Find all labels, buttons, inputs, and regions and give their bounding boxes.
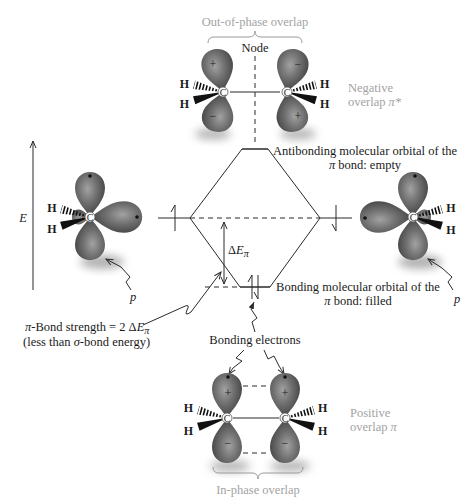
out-of-phase-caption: Out-of-phase overlap [202, 15, 309, 29]
hydrogen-atom: H [320, 97, 330, 111]
hydrogen-atom: H [180, 77, 190, 91]
bond-strength-line1: π-Bond strength = 2 ΔEπ [25, 320, 150, 336]
bottom-orbital-pair: + + − − H H H H C C Positive overlap π I… [184, 373, 398, 497]
carbon-atom: C [224, 413, 231, 424]
pi-bond-mo-diagram: Out-of-phase overlap Node + − − + H H H … [0, 0, 473, 504]
overlap-word: overlap [350, 420, 391, 434]
electron-dot [363, 216, 367, 220]
hydrogen-atom: H [184, 401, 194, 415]
bonding-label-line2: π bond: filled [324, 294, 392, 308]
pi-subscript: π [244, 248, 250, 259]
energy-axis-label: E [18, 211, 27, 225]
e-symbol: E [235, 243, 244, 257]
bonding-electrons-pointer-left [229, 350, 244, 374]
carbon-atom: C [282, 413, 289, 424]
bond-strength-annotation: π-Bond strength = 2 ΔEπ (less than σ-bon… [23, 272, 221, 349]
electron-dot [283, 375, 287, 379]
electron-dot [226, 375, 230, 379]
electron-dot [413, 174, 417, 178]
bond-strength-text: -Bond strength = 2 Δ [31, 320, 136, 334]
node-label: Node [241, 41, 269, 55]
less-than-text: (less than [23, 335, 74, 349]
phase-sign-minus: − [295, 57, 302, 71]
pi-symbol: π [391, 420, 398, 434]
delta-e-label: ΔEπ [228, 243, 250, 259]
positive-overlap-label-line2: overlap π [350, 420, 398, 434]
bonding-electrons-pointer-right [264, 350, 284, 374]
bonding-label-line1: Bonding molecular orbital of the [276, 280, 440, 294]
in-phase-caption: In-phase overlap [216, 483, 300, 497]
p-orbital-lobe-upper-right [272, 46, 312, 95]
phase-sign-plus: + [210, 57, 217, 71]
top-orbital-pair: Out-of-phase overlap Node + − − + H H H … [180, 15, 402, 142]
hydrogen-atom: H [184, 424, 194, 438]
bond-strength-pointer [143, 272, 221, 325]
p-orbital-label-right: p [453, 292, 460, 306]
phase-sign-minus: − [282, 436, 289, 450]
electron-dot [88, 174, 92, 178]
bonding-correlation-lines [190, 218, 320, 287]
phase-sign-plus: + [282, 386, 289, 400]
hydrogen-atom: H [320, 77, 330, 91]
antibonding-state: bond: empty [335, 158, 402, 172]
hydrogen-atom: H [180, 97, 190, 111]
hashed-wedge-bond [288, 410, 315, 417]
left-carbon-p-orbital: H H C p [47, 172, 142, 304]
carbon-atom: C [220, 87, 227, 98]
hydrogen-atom: H [47, 201, 57, 215]
p-orbital-label-left: p [129, 290, 136, 304]
delta-symbol: Δ [228, 243, 236, 257]
bonding-electrons-label: Bonding electrons [209, 333, 300, 347]
hydrogen-atom: H [318, 424, 328, 438]
e-symbol: E [136, 320, 145, 334]
energy-axis: E [18, 141, 33, 290]
pi-star-symbol: π* [389, 95, 402, 109]
antibonding-label-line2: π bond: empty [329, 158, 402, 172]
antibonding-label-line1: Antibonding molecular orbital of the [273, 144, 457, 158]
hydrogen-atom: H [318, 401, 328, 415]
phase-sign-plus: + [295, 109, 302, 123]
negative-overlap-label-line2: overlap π* [348, 95, 402, 109]
p-orbital-lobe-upper-left [199, 46, 239, 95]
hydrogen-atom: H [446, 201, 456, 215]
bond-energy-text: -bond energy) [80, 335, 150, 349]
bonding-electrons-annotation: Bonding electrons [209, 302, 300, 374]
bond-strength-line2: (less than σ-bond energy) [23, 335, 150, 349]
hydrogen-atom: H [47, 222, 57, 236]
hashed-wedge-bond [197, 410, 224, 417]
negative-overlap-line1: Negative [348, 81, 394, 95]
negative-overlap-label: Negative [348, 81, 394, 95]
carbon-atom: C [284, 87, 291, 98]
hydrogen-atom: H [446, 223, 456, 237]
overlap-word: overlap [348, 95, 389, 109]
bonding-state: bond: filled [331, 294, 393, 308]
phase-sign-minus: − [210, 109, 217, 123]
carbon-atom: C [410, 212, 417, 223]
diagram-svg: Out-of-phase overlap Node + − − + H H H … [0, 0, 473, 504]
positive-overlap-label-line1: Positive [350, 406, 391, 420]
antibonding-correlation-lines [190, 149, 320, 218]
carbon-atom: C [87, 212, 94, 223]
electron-dot [135, 215, 139, 219]
phase-sign-minus: − [225, 436, 232, 450]
phase-sign-plus: + [225, 386, 232, 400]
bonding-electrons-pointer-up [251, 302, 257, 332]
